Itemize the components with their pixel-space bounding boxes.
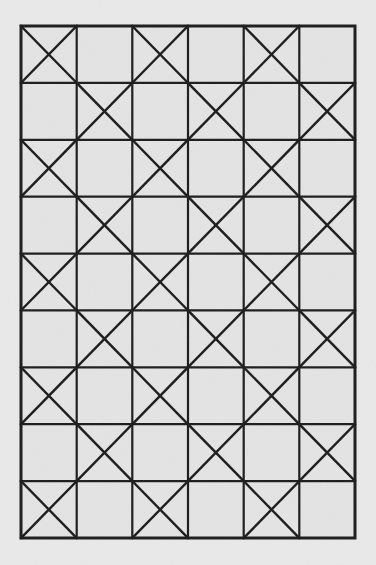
figure-root: Crossed-square lattice pattern Rectangul…: [0, 0, 376, 565]
grid-pattern-figure: Crossed-square lattice pattern Rectangul…: [0, 0, 376, 565]
paper-grain-overlay: [0, 0, 376, 565]
